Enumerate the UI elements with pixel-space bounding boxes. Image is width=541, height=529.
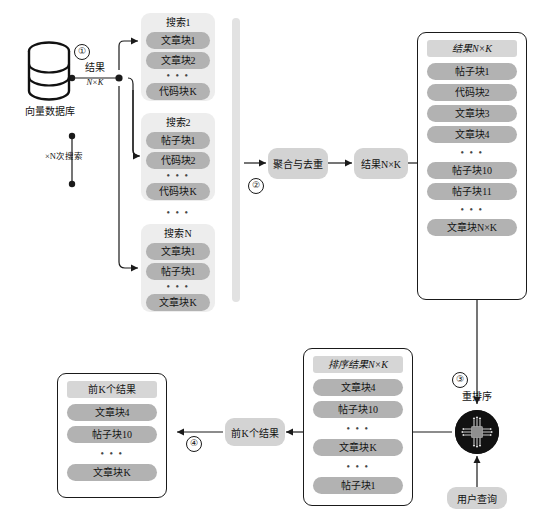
merge-dedup-box[interactable]: 聚合与去重 <box>268 148 328 179</box>
result-arrow-label: 结果 <box>74 62 116 74</box>
repeat-search-label: ×N次搜索 <box>45 152 105 162</box>
cpu-chip-icon <box>455 410 499 454</box>
search-group-2-item-2: 代码块2 <box>146 152 210 169</box>
step-2-badge: ② <box>248 178 264 194</box>
merged-row-3: 文章块3 <box>427 105 517 122</box>
search-group-2-header: 搜索2 <box>141 117 215 129</box>
search-group-n: 搜索N 文章块1 帖子块1 • • • 文章块K <box>141 224 215 312</box>
topk-results-panel: 前K个结果 文章块4 帖子块10 • • • 文章块K <box>57 373 167 498</box>
step-3-badge: ③ <box>452 372 468 388</box>
rerank-label: 重排序 <box>447 391 507 403</box>
topk-row-1: 文章块4 <box>67 404 157 421</box>
search-group-1: 搜索1 文章块1 文章块2 • • • 代码块K <box>141 13 215 101</box>
user-query-box[interactable]: 用户查询 <box>447 487 507 509</box>
vector-database-icon <box>26 40 72 102</box>
sorted-results-panel: 排序结果N×K 文章块4 帖子块10 • • • 文章块K • • • 帖子块1 <box>303 348 413 506</box>
merged-row-1: 帖子块1 <box>427 63 517 80</box>
sorted-row-2: 帖子块10 <box>313 401 403 418</box>
sorted-results-header: 排序结果N×K <box>313 356 403 373</box>
merged-row-5: 帖子块10 <box>427 162 517 179</box>
merged-row-4: 文章块4 <box>427 126 517 143</box>
search-group-n-last: 文章块K <box>146 294 210 311</box>
sorted-row-ellipsis-2: • • • <box>313 462 403 472</box>
step-4-badge: ④ <box>186 436 202 452</box>
result-arrow-sublabel: N×K <box>74 78 116 88</box>
merged-result-box[interactable]: 结果N×K <box>354 148 408 179</box>
topk-results-header: 前K个结果 <box>67 381 157 398</box>
merged-row-ellipsis-1: • • • <box>427 148 517 158</box>
merged-results-header: 结果N×K <box>427 40 517 57</box>
sorted-results-rows: 文章块4 帖子块10 • • • 文章块K • • • 帖子块1 <box>313 379 403 494</box>
merged-row-7: 文章块N×K <box>427 219 517 236</box>
topk-row-3: 文章块K <box>67 464 157 481</box>
vector-database-label: 向量数据库 <box>10 106 90 118</box>
search-groups-gap-ellipsis: • • • <box>141 208 215 218</box>
search-group-n-item-1: 文章块1 <box>146 243 210 260</box>
sorted-row-ellipsis-1: • • • <box>313 424 403 434</box>
merged-row-ellipsis-2: • • • <box>427 205 517 215</box>
search-group-1-last: 代码块K <box>146 83 210 100</box>
sorted-row-3: 文章块K <box>313 439 403 456</box>
search-group-1-ellipsis: • • • <box>141 71 215 81</box>
search-group-n-ellipsis: • • • <box>141 282 215 292</box>
merged-row-6: 帖子块11 <box>427 183 517 200</box>
search-group-2-last: 代码块K <box>146 183 210 200</box>
search-group-1-item-2: 文章块2 <box>146 52 210 69</box>
sorted-row-4: 帖子块1 <box>313 477 403 494</box>
search-group-2: 搜索2 帖子块1 代码块2 • • • 代码块K <box>141 113 215 201</box>
sorted-row-1: 文章块4 <box>313 379 403 396</box>
topk-row-2: 帖子块10 <box>67 426 157 443</box>
step-1-badge: ① <box>74 44 90 60</box>
search-group-2-ellipsis: • • • <box>141 171 215 181</box>
merged-results-panel: 结果N×K 帖子块1 代码块2 文章块3 文章块4 • • • 帖子块10 帖子… <box>417 32 527 300</box>
topk-results-rows: 文章块4 帖子块10 • • • 文章块K <box>67 404 157 481</box>
search-group-1-header: 搜索1 <box>141 17 215 29</box>
vertical-separator-bar <box>232 18 240 302</box>
search-group-n-item-2: 帖子块1 <box>146 263 210 280</box>
search-group-n-header: 搜索N <box>141 228 215 240</box>
diagram-canvas: 向量数据库 结果 N×K ×N次搜索 ① 搜索1 文章块1 文章块2 • • •… <box>0 0 541 529</box>
topk-row-ellipsis: • • • <box>67 449 157 459</box>
search-group-1-item-1: 文章块1 <box>146 32 210 49</box>
merged-row-2: 代码块2 <box>427 84 517 101</box>
search-group-2-item-1: 帖子块1 <box>146 132 210 149</box>
merged-results-rows: 帖子块1 代码块2 文章块3 文章块4 • • • 帖子块10 帖子块11 • … <box>427 63 517 236</box>
topk-transfer-box[interactable]: 前K个结果 <box>225 418 285 446</box>
